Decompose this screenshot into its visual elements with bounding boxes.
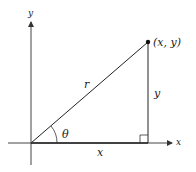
hypotenuse-label: r — [84, 79, 89, 90]
point-label: (x, y) — [153, 37, 181, 48]
right-angle-marker — [140, 135, 148, 143]
y-axis-label: y — [28, 9, 33, 18]
right-triangle-diagram: y x (x, y) r θ x y — [0, 0, 196, 172]
angle-label: θ — [62, 129, 69, 140]
x-axis-label: x — [176, 138, 181, 147]
point-dot — [146, 40, 150, 44]
hypotenuse — [31, 42, 148, 143]
opposite-label: y — [154, 88, 160, 99]
angle-arc — [51, 126, 57, 143]
adjacent-label: x — [97, 147, 103, 158]
